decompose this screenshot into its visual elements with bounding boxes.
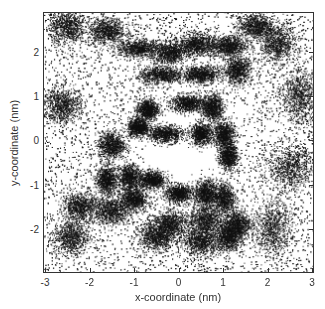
y-tick xyxy=(309,52,313,53)
y-tick xyxy=(309,96,313,97)
x-tick xyxy=(223,268,224,272)
x-tick xyxy=(312,268,313,272)
x-axis-title: x-coordinate (nm) xyxy=(135,291,221,303)
x-tick xyxy=(134,268,135,272)
y-tick xyxy=(309,229,313,230)
x-tick-label: 3 xyxy=(309,277,315,288)
x-tick-label: 1 xyxy=(220,277,226,288)
x-tick-label: 2 xyxy=(265,277,271,288)
y-tick xyxy=(309,185,313,186)
x-tick xyxy=(268,268,269,272)
x-tick-label: -2 xyxy=(85,277,94,288)
y-tick-label: -2 xyxy=(25,223,39,234)
x-tick xyxy=(179,268,180,272)
y-tick-label: -1 xyxy=(25,179,39,190)
x-tick-label: 0 xyxy=(176,277,182,288)
x-tick xyxy=(45,268,46,272)
y-tick xyxy=(309,140,313,141)
y-tick-label: 1 xyxy=(25,91,39,102)
y-tick-label: 0 xyxy=(25,135,39,146)
x-tick-label: -1 xyxy=(130,277,139,288)
x-tick-label: -3 xyxy=(41,277,50,288)
y-axis-title: y-coordinate (nm) xyxy=(8,100,20,186)
density-scatter xyxy=(44,13,313,272)
plot-area xyxy=(43,12,314,273)
y-tick-label: 2 xyxy=(25,46,39,57)
x-tick xyxy=(90,268,91,272)
